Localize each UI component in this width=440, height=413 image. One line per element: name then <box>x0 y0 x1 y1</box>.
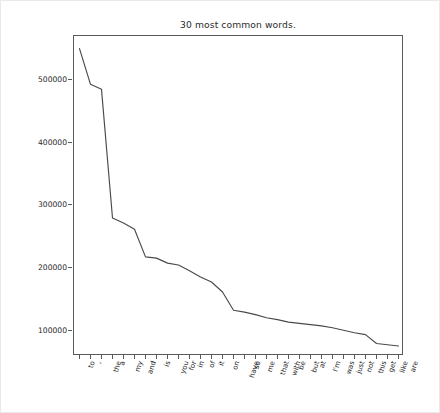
x-tick-mark <box>255 355 256 359</box>
x-tick-mark <box>299 355 300 359</box>
x-tick-mark <box>343 355 344 359</box>
x-tick-label: that <box>278 360 290 376</box>
data-polyline <box>80 49 399 346</box>
x-tick-label: on <box>231 360 241 371</box>
x-tick-mark <box>101 355 102 359</box>
x-tick-mark <box>79 355 80 359</box>
x-axis-tick-marks <box>73 355 403 359</box>
x-axis-tick-labels: to,theamyandIisyouforinofitonhavesometha… <box>73 360 403 410</box>
x-tick-label: are <box>408 360 419 373</box>
x-tick-mark <box>266 355 267 359</box>
x-tick-label: of <box>207 360 217 369</box>
y-tick-mark <box>68 142 72 143</box>
y-tick-mark <box>68 79 72 80</box>
x-tick-mark <box>398 355 399 359</box>
chart-title: 30 most common words. <box>73 19 403 30</box>
x-tick-mark <box>112 355 113 359</box>
x-tick-mark <box>156 355 157 359</box>
x-tick-mark <box>222 355 223 359</box>
x-tick-mark <box>145 355 146 359</box>
x-tick-label: me <box>265 360 276 373</box>
x-tick-mark <box>387 355 388 359</box>
x-tick-mark <box>90 355 91 359</box>
x-tick-label: my <box>133 360 144 373</box>
x-tick-mark <box>189 355 190 359</box>
x-tick-label: was <box>344 360 356 375</box>
x-tick-mark <box>321 355 322 359</box>
x-tick-mark <box>178 355 179 359</box>
x-tick-mark <box>244 355 245 359</box>
y-tick-mark <box>68 267 72 268</box>
y-tick-mark <box>68 204 72 205</box>
x-tick-mark <box>200 355 201 359</box>
x-tick-label: like <box>398 360 409 374</box>
x-tick-label: it <box>217 360 226 367</box>
x-tick-mark <box>167 355 168 359</box>
figure-canvas: 30 most common words. Count 100000200000… <box>0 0 440 413</box>
x-tick-mark <box>365 355 366 359</box>
y-tick-mark <box>68 330 72 331</box>
x-tick-mark <box>233 355 234 359</box>
x-tick-label: I'm <box>331 360 342 373</box>
x-tick-mark <box>310 355 311 359</box>
x-tick-mark <box>332 355 333 359</box>
x-tick-mark <box>354 355 355 359</box>
x-tick-mark <box>277 355 278 359</box>
line-series-to-are <box>74 36 404 356</box>
x-tick-mark <box>211 355 212 359</box>
x-tick-label: is <box>162 360 171 368</box>
y-axis-tick-marks <box>0 35 73 355</box>
x-tick-label: this <box>376 360 388 375</box>
x-tick-mark <box>376 355 377 359</box>
x-tick-label: in <box>196 360 206 369</box>
plot-area <box>73 35 403 355</box>
x-tick-mark <box>288 355 289 359</box>
x-tick-mark <box>134 355 135 359</box>
x-tick-mark <box>123 355 124 359</box>
